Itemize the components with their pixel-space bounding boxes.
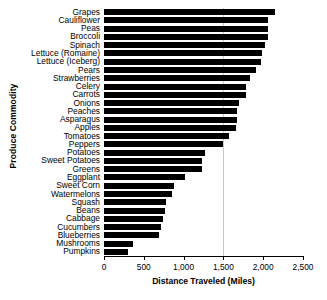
x-axis-tick [104, 256, 105, 260]
x-axis-tick [184, 256, 185, 260]
bar [104, 42, 265, 48]
bar [104, 125, 236, 131]
x-axis-tick-label: 0 [102, 262, 107, 272]
produce-distance-bar-chart: Produce Commodity GrapesCauliflowerPeasB… [0, 0, 327, 300]
bar [104, 158, 202, 164]
bar [104, 166, 202, 172]
bar [104, 59, 261, 65]
bar [104, 75, 250, 81]
x-axis-tick-label: 2,500 [293, 262, 314, 272]
bar [104, 67, 256, 73]
bar [104, 26, 268, 32]
bar [104, 84, 246, 90]
bar [104, 183, 174, 189]
x-axis-tick-label: 1,500 [213, 262, 234, 272]
x-axis-tick [303, 256, 304, 260]
bar [104, 191, 172, 197]
y-axis-tick-labels: GrapesCauliflowerPeasBroccoliSpinachLett… [12, 8, 100, 256]
bar [104, 133, 229, 139]
bar [104, 141, 223, 147]
bar [104, 216, 163, 222]
bar [104, 117, 237, 123]
bar [104, 208, 165, 214]
bar [104, 249, 128, 255]
x-axis-tick-label: 1,000 [173, 262, 194, 272]
bar [104, 174, 185, 180]
x-axis-tick-label: 500 [137, 262, 151, 272]
bar [104, 241, 133, 247]
bar [104, 50, 262, 56]
x-axis-tick [223, 256, 224, 260]
bar [104, 150, 205, 156]
x-axis-tick-label: 2,000 [253, 262, 274, 272]
bar [104, 17, 268, 23]
bar [104, 9, 275, 15]
bar [104, 232, 159, 238]
bar [104, 100, 239, 106]
plot-area [104, 8, 303, 256]
x-axis-line [104, 256, 303, 257]
x-axis-title: Distance Traveled (Miles) [104, 276, 303, 286]
bar [104, 224, 161, 230]
y-axis-tick-label: Pumpkins [12, 247, 100, 256]
x-axis-tick [263, 256, 264, 260]
bar [104, 199, 166, 205]
bar [104, 34, 268, 40]
bar [104, 108, 237, 114]
bar [104, 92, 246, 98]
x-axis-tick [144, 256, 145, 260]
